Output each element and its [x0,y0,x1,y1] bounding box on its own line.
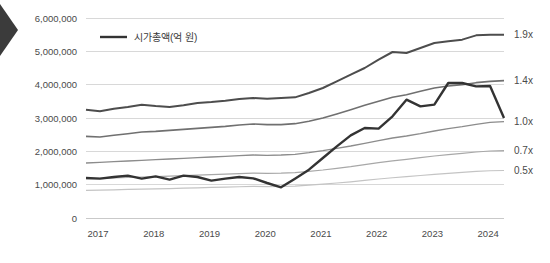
legend: 시가총액(억 원) [100,32,197,43]
x-axis-tick-label: 2020 [255,228,276,239]
y-axis-tick-labels: 01,000,0002,000,0003,000,0004,000,0005,0… [35,13,77,224]
y-axis-tick-label: 6,000,000 [35,13,77,24]
gridlines [86,18,504,218]
x-axis-tick-label: 2017 [87,228,108,239]
series-lines [86,35,504,191]
series-line-0-5x [86,171,504,191]
x-axis-tick-label: 2023 [422,228,443,239]
series-line-1-4x [86,81,504,137]
series-end-label-0-5x: 0.5x [514,165,533,176]
y-axis-tick-label: 5,000,000 [35,46,77,57]
y-axis-tick-label: 2,000,000 [35,146,77,157]
series-line-market-cap [86,83,504,187]
series-line-1-9x [86,35,504,112]
chart-canvas: 01,000,0002,000,0003,000,0004,000,0005,0… [0,0,550,263]
x-axis-tick-label: 2021 [310,228,331,239]
series-end-label-0-7x: 0.7x [514,145,533,156]
legend-label-market-cap: 시가총액(억 원) [134,32,197,43]
x-axis-tick-label: 2024 [478,228,499,239]
series-end-label-1-9x: 1.9x [514,29,533,40]
x-axis-tick-label: 2019 [199,228,220,239]
y-axis-tick-label: 1,000,000 [35,179,77,190]
series-end-label-1-0x: 1.0x [514,116,533,127]
x-axis-tick-label: 2018 [143,228,164,239]
x-axis-tick-label: 2022 [366,228,387,239]
left-chevron-marker [0,4,18,56]
y-axis-tick-label: 3,000,000 [35,113,77,124]
series-line-1-0x [86,122,504,163]
series-end-label-1-4x: 1.4x [514,75,533,86]
market-cap-line-chart: 01,000,0002,000,0003,000,0004,000,0005,0… [0,0,550,263]
x-axis-tick-labels: 20172018201920202021202220232024 [87,228,498,239]
series-end-labels: 1.9x1.4x1.0x0.7x0.5x [514,29,533,176]
y-axis-tick-label: 0 [72,213,77,224]
y-axis-tick-label: 4,000,000 [35,79,77,90]
